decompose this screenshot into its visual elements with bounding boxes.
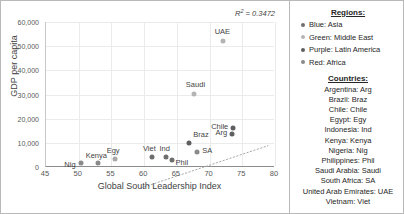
data-point-label: SA <box>202 146 212 155</box>
y-tick-label: 40,000 <box>1 67 39 74</box>
data-point-label: Viet <box>143 144 156 153</box>
data-point[interactable] <box>112 156 117 161</box>
data-point[interactable] <box>220 38 225 43</box>
legend-region-item[interactable]: Purple: Latin America <box>301 45 399 54</box>
countries-heading: Countries: <box>297 74 399 83</box>
legend-bullet-icon <box>301 48 305 52</box>
data-point[interactable] <box>187 140 192 145</box>
countries-list: Argentina: ArgBrazil: BrazChile: ChileEg… <box>297 85 399 207</box>
y-tick-label: 20,000 <box>1 115 39 122</box>
y-tick-label: 30,000 <box>1 91 39 98</box>
data-point[interactable] <box>231 125 236 130</box>
x-tick-label: 80 <box>261 169 287 178</box>
data-point[interactable] <box>195 149 200 154</box>
gridline-vertical <box>275 22 276 166</box>
legend-country-item: Kenya: Kenya <box>297 136 399 146</box>
gridline-horizontal <box>46 95 274 96</box>
legend-country-item: Saudi Arabia: Saudi <box>297 166 399 176</box>
y-tick-label: 50,000 <box>1 43 39 50</box>
legend-bullet-icon <box>301 23 305 27</box>
chart-figure: GDP per capita NigKenyaEgyVietIndPhilBra… <box>0 0 404 214</box>
legend-region-item[interactable]: Red: Africa <box>301 58 399 67</box>
data-point[interactable] <box>149 154 154 159</box>
legend-country-item: United Arab Emirates: UAE <box>297 187 399 197</box>
x-tick-label: 55 <box>97 169 123 178</box>
legend-country-item: Egypt: Egy <box>297 115 399 125</box>
gridline-horizontal <box>46 119 274 120</box>
data-point-label: Kenya <box>86 151 107 160</box>
data-point-label: Phil <box>176 158 189 167</box>
data-point-label: Braz <box>193 130 208 139</box>
data-point-label: Egy <box>107 146 120 155</box>
legend-panel: Regions: Blue: AsiaGreen: Middle EastPur… <box>291 1 403 213</box>
x-axis-title: Global South Leadership Index <box>45 181 274 191</box>
x-tick-label: 75 <box>228 169 254 178</box>
legend-country-item: Nigeria: Nig <box>297 146 399 156</box>
data-point[interactable] <box>191 92 196 97</box>
legend-country-item: Indonesia: Ind <box>297 125 399 135</box>
y-tick-label: 60,000 <box>1 19 39 26</box>
legend-country-item: Vietnam: Viet <box>297 197 399 207</box>
regions-list: Blue: AsiaGreen: Middle EastPurple: Lati… <box>297 20 399 67</box>
legend-region-item[interactable]: Blue: Asia <box>301 20 399 29</box>
legend-country-item: Philippines: Phil <box>297 156 399 166</box>
r-squared-annotation: R2 = 0.3472 <box>235 7 275 18</box>
data-point[interactable] <box>164 154 169 159</box>
regions-heading: Regions: <box>297 8 399 17</box>
data-point-label: Arg <box>215 128 227 137</box>
legend-region-label: Purple: Latin America <box>309 45 380 54</box>
legend-bullet-icon <box>301 35 305 39</box>
y-tick-label: 10,000 <box>1 139 39 146</box>
legend-region-item[interactable]: Green: Middle East <box>301 33 399 42</box>
plot-area: NigKenyaEgyVietIndPhilBrazSASaudiUAEChil… <box>45 22 274 167</box>
legend-region-label: Red: Africa <box>309 58 346 67</box>
data-point[interactable] <box>230 132 235 137</box>
trendline <box>90 43 319 188</box>
data-point[interactable] <box>95 160 100 165</box>
data-point-label: UAE <box>215 27 230 36</box>
data-point[interactable] <box>79 161 84 166</box>
data-point-label: Saudi <box>186 80 205 89</box>
legend-country-item: South Africa: SA <box>297 176 399 186</box>
legend-country-item: Brazil: Braz <box>297 95 399 105</box>
gridline-horizontal <box>46 22 274 23</box>
data-point[interactable] <box>169 157 174 162</box>
scatter-chart-panel: GDP per capita NigKenyaEgyVietIndPhilBra… <box>1 1 290 213</box>
x-tick-label: 50 <box>65 169 91 178</box>
x-tick-label: 65 <box>163 169 189 178</box>
legend-bullet-icon <box>301 60 305 64</box>
legend-region-label: Green: Middle East <box>309 33 373 42</box>
gridline-horizontal <box>46 70 274 71</box>
x-tick-label: 70 <box>196 169 222 178</box>
data-point-label: Ind <box>159 144 169 153</box>
x-tick-label: 45 <box>32 169 58 178</box>
legend-country-item: Chile: Chile <box>297 105 399 115</box>
gridline-horizontal <box>46 46 274 47</box>
x-tick-label: 60 <box>130 169 156 178</box>
legend-region-label: Blue: Asia <box>309 20 342 29</box>
legend-country-item: Argentina: Arg <box>297 85 399 95</box>
